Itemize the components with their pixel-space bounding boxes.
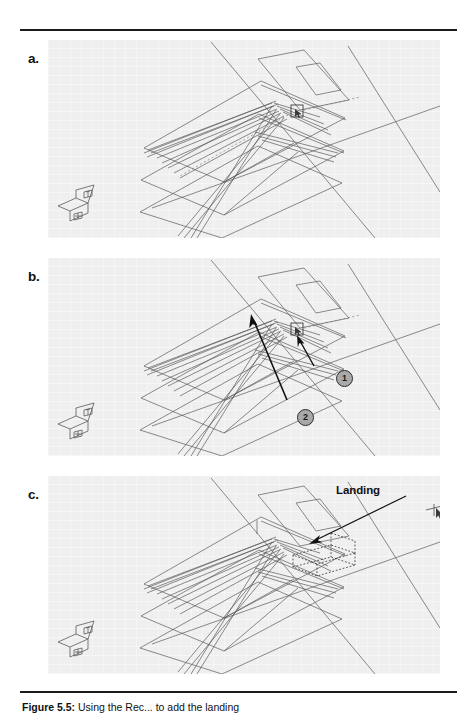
panel-label-c: c. xyxy=(28,488,39,502)
isometric-drawing-c xyxy=(48,476,440,674)
panel-a xyxy=(48,40,440,238)
panel-label-b: b. xyxy=(28,270,40,284)
ucs-origin-icon-b xyxy=(58,403,94,439)
panel-b xyxy=(48,258,440,456)
caption-text: Using the Rec... to add the landing xyxy=(75,701,239,713)
figure-caption: Figure 5.5: Using the Rec... to add the … xyxy=(22,701,452,714)
panel-c xyxy=(48,476,440,674)
callout-bubble-1: 1 xyxy=(336,370,353,387)
bottom-rule xyxy=(20,691,457,693)
callout-bubble-2: 2 xyxy=(297,409,314,426)
top-rule xyxy=(20,29,457,31)
landing-label: Landing xyxy=(336,485,380,497)
caption-figure-number: Figure 5.5: xyxy=(22,701,75,713)
ucs-origin-icon-c xyxy=(58,621,94,657)
isometric-drawing-b xyxy=(48,258,440,456)
isometric-drawing-a xyxy=(48,40,440,238)
panel-label-a: a. xyxy=(28,52,39,66)
ucs-origin-icon-a xyxy=(58,185,94,221)
